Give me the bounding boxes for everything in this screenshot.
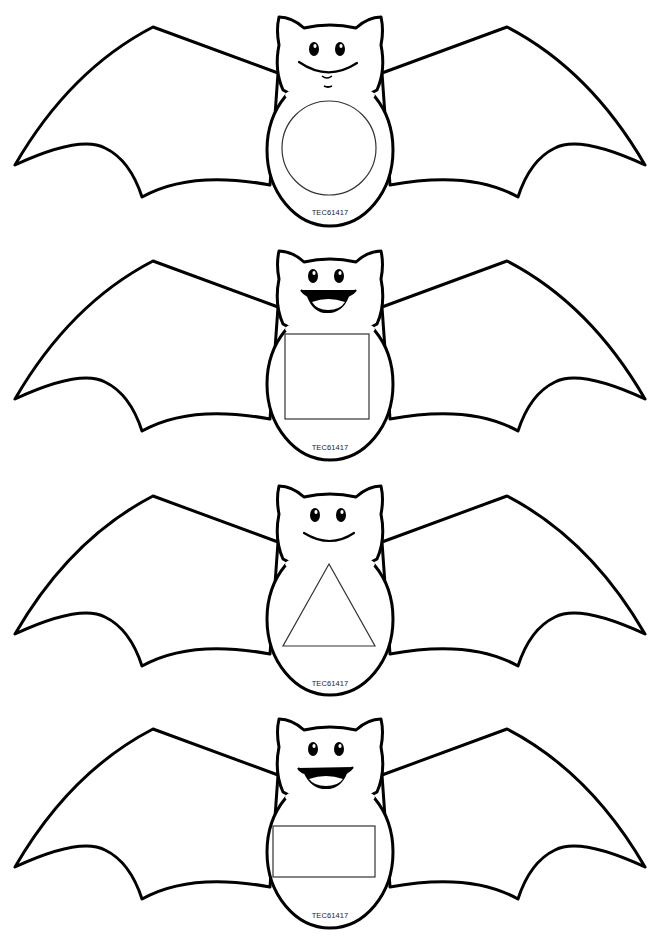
right-wing (382, 496, 645, 666)
left-wing (15, 27, 278, 197)
bat-cutout-rectangle: TEC61417 (0, 702, 664, 934)
right-wing (382, 27, 645, 197)
bat-outline-icon (0, 702, 664, 934)
bat-cutout-circle: TEC61417 (0, 0, 664, 232)
left-wing (15, 496, 278, 666)
product-code-label: TEC61417 (290, 208, 370, 217)
bat-cutout-square: TEC61417 (0, 234, 664, 466)
bat-cutout-triangle: TEC61417 (0, 469, 664, 701)
bat-outline-icon (0, 234, 664, 466)
bat-outline-icon (0, 469, 664, 701)
product-code-label: TEC61417 (290, 911, 370, 920)
bat-outline-icon (0, 0, 664, 232)
right-wing (382, 261, 645, 431)
left-wing (15, 729, 278, 899)
product-code-label: TEC61417 (290, 679, 370, 688)
right-wing (382, 729, 645, 899)
left-wing (15, 261, 278, 431)
product-code-label: TEC61417 (290, 443, 370, 452)
